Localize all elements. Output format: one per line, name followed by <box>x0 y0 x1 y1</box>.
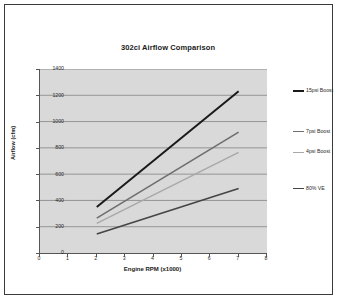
x-tick-mark <box>209 254 210 257</box>
y-axis-title: Airflow (cfm) <box>10 103 16 183</box>
legend-label: 4psi Boost <box>306 149 330 154</box>
chart: 302ci Airflow Comparison 020040060080010… <box>5 5 331 293</box>
y-tick-label: 600 <box>40 172 64 177</box>
legend-item-0[interactable]: 15psi Boost <box>293 88 333 93</box>
y-tick-mark <box>36 95 39 96</box>
image-border: 302ci Airflow Comparison 020040060080010… <box>4 4 333 295</box>
legend-item-3[interactable]: 80% VE <box>293 186 325 191</box>
legend-swatch-icon <box>293 131 304 132</box>
series-line-2 <box>97 152 239 223</box>
x-tick-mark <box>124 254 125 257</box>
y-tick-mark <box>36 227 39 228</box>
legend-label: 80% VE <box>306 186 325 191</box>
y-tick-label: 200 <box>40 224 64 229</box>
y-tick-label: 800 <box>40 145 64 150</box>
y-tick-label: 400 <box>40 198 64 203</box>
x-tick-mark <box>238 254 239 257</box>
series-line-1 <box>97 132 239 218</box>
y-tick-label: 0 <box>40 250 64 255</box>
x-tick-mark <box>39 254 40 257</box>
x-tick-mark <box>181 254 182 257</box>
x-tick-mark <box>96 254 97 257</box>
y-tick-mark <box>36 69 39 70</box>
plot-area <box>39 69 267 254</box>
series-line-3 <box>97 189 239 234</box>
series-lines <box>97 91 239 234</box>
x-tick-mark <box>67 254 68 257</box>
x-tick-mark <box>153 254 154 257</box>
legend-label: 15psi Boost <box>306 88 333 93</box>
chart-title: 302ci Airflow Comparison <box>5 43 331 52</box>
legend-swatch-icon <box>293 90 304 92</box>
y-tick-mark <box>36 174 39 175</box>
y-tick-mark <box>36 148 39 149</box>
legend-item-1[interactable]: 7psi Boost <box>293 129 330 134</box>
legend-item-2[interactable]: 4psi Boost <box>293 149 330 154</box>
x-tick-mark <box>266 254 267 257</box>
gridlines <box>40 69 267 227</box>
y-tick-mark <box>36 200 39 201</box>
y-tick-label: 1200 <box>40 93 64 98</box>
legend-label: 7psi Boost <box>306 129 330 134</box>
y-tick-label: 1000 <box>40 119 64 124</box>
y-tick-label: 1400 <box>40 66 64 71</box>
legend-swatch-icon <box>293 188 304 189</box>
y-tick-mark <box>36 122 39 123</box>
x-axis-title: Engine RPM (x1000) <box>39 266 266 272</box>
series-line-0 <box>97 91 239 207</box>
legend-swatch-icon <box>293 152 304 153</box>
plot-svg <box>40 69 267 253</box>
